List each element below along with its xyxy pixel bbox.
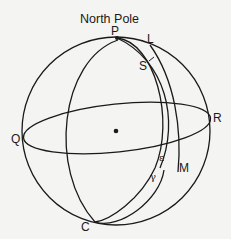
north-pole-label: North Pole bbox=[80, 13, 139, 26]
gamma-label: γ bbox=[150, 172, 156, 182]
point-l-label: L bbox=[147, 33, 154, 45]
point-q-label: Q bbox=[11, 133, 20, 145]
point-c-label: C bbox=[81, 221, 90, 233]
s-tick bbox=[149, 57, 154, 61]
center-point bbox=[114, 129, 119, 134]
celestial-equator bbox=[21, 94, 213, 161]
epsilon-label: ε bbox=[159, 153, 164, 163]
point-r-label: R bbox=[213, 112, 222, 124]
point-s-label: S bbox=[139, 60, 147, 72]
point-p-label: P bbox=[111, 25, 119, 37]
point-m-label: M bbox=[179, 162, 189, 174]
